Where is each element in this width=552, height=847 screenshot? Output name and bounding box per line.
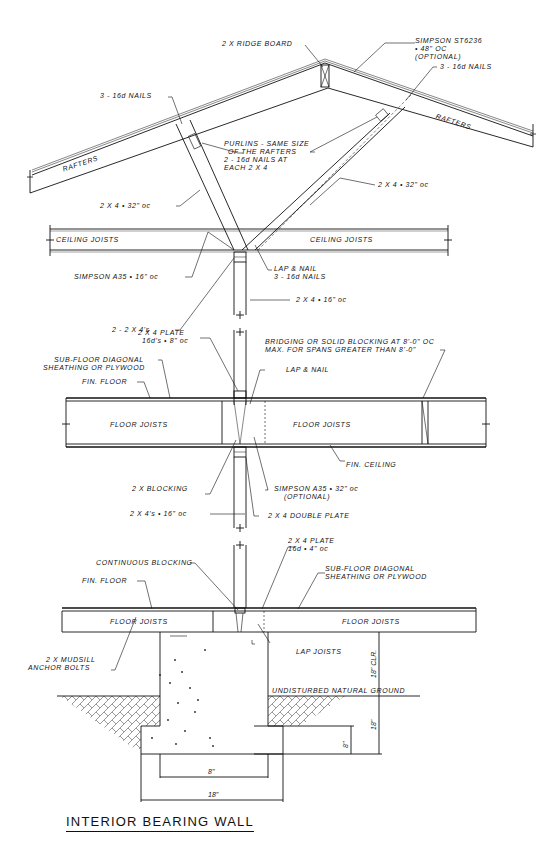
stud-label: 2 X 4 • 16" oc [296,296,347,304]
lap-nail-label-2: 3 - 16d NAILS [274,273,326,281]
fin-floor-2-label: FIN. FLOOR [82,577,127,585]
floor-joists-left-label: FLOOR JOISTS [110,421,168,429]
purlins-label-4: EACH 2 X 4 [224,164,268,172]
subfloor-2-label-2: SHEATHING or PLYWOOD [325,573,427,581]
subfloor-label-2: SHEATHING or PLYWOOD [43,364,145,372]
floor-joists-right-label: FLOOR JOISTS [293,421,351,429]
nails-right-label: 3 - 16d NAILS [440,63,492,71]
mudsill-label-1: 2 X MUDSILL [46,656,95,664]
drawing-title: INTERIOR BEARING WALL [66,814,254,832]
ground-label: UNDISTURBED NATURAL GROUND [272,687,405,695]
lap-joists-label: LAP JOISTS [296,648,341,656]
simpson-a35-2-label-1: SIMPSON A35 • 32" oc [274,485,358,493]
bridging-label-1: BRIDGING OR SOLID BLOCKING AT 8'-0" oc [265,338,434,346]
blocking-label: 2 X BLOCKING [132,485,188,493]
simpson-strap-label-2: • 48" oc [415,45,447,53]
lap-nail-label-1: LAP & NAIL [274,265,317,273]
depth-dim: 18" [370,720,377,730]
subfloor-label-1: SUB-FLOOR DIAGONAL [54,356,144,364]
floor-joists-2-right-label: FLOOR JOISTS [342,618,400,626]
lap-nail-2-label: LAP & NAIL [286,366,329,374]
purlins-label-1: PURLINS - SAME SIZE [224,140,309,148]
simpson-strap-label-1: SIMPSON ST6236 [415,37,482,45]
upper-wall-stud [234,252,246,405]
fin-floor-label: FIN. FLOOR [82,378,127,386]
concrete-aggregate [151,649,214,747]
bridging-label-2: MAX. FOR SPANS GREATER THAN 8'-0" [265,346,416,354]
continuous-blocking-label: CONTINUOUS BLOCKING [96,559,193,567]
plate-2-label-2: 16d • 4" oc [288,545,328,553]
clearance-dim: 18" CLR. [370,650,377,678]
ridge-board [321,65,329,87]
purlins-label-2: OF THE RAFTERS [228,148,297,156]
nails-left-label: 3 - 16d NAILS [100,92,152,100]
ceiling-joists-left-label: CEILING JOISTS [56,236,119,244]
footing-width-dim: 18" [208,791,218,798]
simpson-a35-label: SIMPSON A35 • 16" oc [74,273,158,281]
lower-wall-stud [234,457,246,613]
stem-width-dim: 8" [208,768,214,775]
simpson-strap-label-3: (OPTIONAL) [415,53,461,61]
brace-left-label: 2 X 4 • 32" oc [100,202,151,210]
ceiling-joists-right-label: CEILING JOISTS [310,236,373,244]
fin-ceiling-label: FIN. CEILING [346,461,396,469]
footing-height-dim: 8" [342,742,349,748]
plate-2-label-1: 2 X 4 PLATE [288,537,335,545]
subfloor-2-label-1: SUB-FLOOR DIAGONAL [325,565,415,573]
floor-joists-2-left-label: FLOOR JOISTS [110,618,168,626]
brace-right-label: 2 X 4 • 32" oc [378,181,429,189]
plate-label-1: 2 X 4 PLATE [138,329,185,337]
ridge-board-label: 2 X RIDGE BOARD [222,40,292,48]
studs-label: 2 X 4's • 16" oc [130,510,187,518]
purlins-label-3: 2 - 16d NAILS AT [224,156,288,164]
mudsill-label-2: ANCHOR BOLTS [28,664,90,672]
foundation [57,632,420,802]
simpson-a35-2-label-2: (OPTIONAL) [284,493,330,501]
right-brace [242,95,411,250]
double-plate-label: 2 X 4 DOUBLE PLATE [268,512,349,520]
plate-label-2: 16d's • 8" oc [142,337,188,345]
